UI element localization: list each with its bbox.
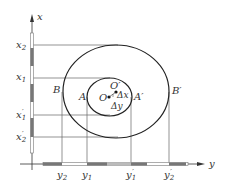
label-a: A (78, 91, 86, 102)
x-axis-arrow-icon (30, 14, 34, 22)
y-bar-dark-segment-3 (131, 163, 147, 166)
y2p-label: y2′ (163, 168, 175, 182)
label-delta-x: Δx (116, 90, 129, 100)
y-bar-dark-segment-2 (87, 163, 107, 166)
y1-label: y1 (81, 169, 92, 182)
x2-label: x2 (16, 39, 27, 52)
x1p-label: x1′ (16, 108, 26, 122)
y-axis-arrow-icon (197, 162, 205, 166)
x-axis-label: x (37, 11, 43, 22)
y-bar-dark-segment-1 (43, 163, 62, 166)
y-axis-label: y (208, 158, 215, 169)
label-o: O (99, 92, 107, 103)
x-bar-dark-segment-3 (31, 118, 34, 137)
x-tick-labels: x2 x1 x1′ x2′ (16, 39, 27, 144)
x-bar-dark-segment-2 (31, 84, 34, 102)
label-b-prime: B′ (171, 85, 182, 96)
y-tick-labels: y2 y1 y1′ y2′ (56, 168, 175, 182)
y-bar-mid-segment (107, 163, 131, 166)
diagram-svg: x y x2 x1 x1′ x2′ y2 y1 y1′ y2′ B A O O′… (0, 0, 227, 188)
y-bar-dark-segment-4 (169, 163, 186, 166)
x-bar-dark-segment-1 (31, 48, 34, 66)
label-a-prime: A′ (133, 91, 144, 102)
x1-label: x1 (16, 71, 26, 84)
displacement-line (109, 92, 116, 97)
y2-label: y2 (56, 169, 68, 182)
y1p-label: y1′ (125, 168, 136, 182)
x2p-label: x2′ (16, 130, 27, 144)
label-b: B (52, 84, 60, 95)
horizontal-projection-lines (33, 45, 118, 137)
point-labels: B A O O′ Δx Δy A′ B′ (52, 80, 182, 111)
label-delta-y: Δy (110, 101, 123, 111)
diagram-canvas: x y x2 x1 x1′ x2′ y2 y1 y1′ y2′ B A O O′… (0, 0, 227, 188)
